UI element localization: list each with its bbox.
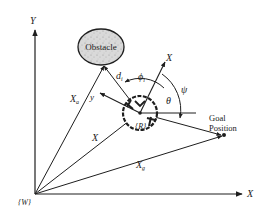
robot-frame-label: {R} (135, 122, 147, 131)
robot-navigation-diagram: Y X {W} Obstacle {R} X y Xa X Xg di (0, 0, 273, 218)
obstacle-position-label: Xa (69, 93, 79, 105)
vector-goal-position (35, 136, 222, 194)
robot-local-x-label: X (165, 52, 173, 63)
goal-label-line1: Goal (209, 113, 226, 123)
world-x-axis-label: X (246, 188, 254, 199)
obstacle: Obstacle (78, 29, 124, 65)
vector-obstacle-position (35, 66, 104, 194)
phi-i-label: ϕi (138, 71, 145, 83)
world-y-axis-label: Y (30, 15, 37, 26)
psi-arc (162, 74, 181, 118)
vector-robot-position (35, 114, 138, 194)
goal-point (222, 133, 226, 137)
theta-label: θ (166, 95, 171, 106)
world-frame-label: {W} (18, 198, 32, 207)
obstacle-label: Obstacle (85, 42, 117, 52)
robot-local-y-label: y (89, 92, 94, 102)
goal-label-line2: Position (209, 123, 238, 133)
robot-position-label: X (91, 132, 99, 143)
psi-label: ψ (181, 84, 188, 95)
obstacle-distance-label: di (116, 70, 123, 82)
